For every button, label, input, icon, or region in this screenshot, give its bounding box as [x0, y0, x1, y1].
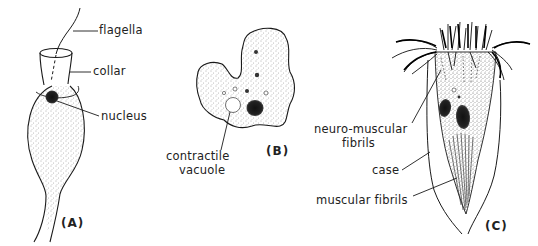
organism-c-ciliate: [392, 22, 530, 234]
label-neuro-muscular: neuro-muscular: [314, 123, 407, 136]
label-case: case: [372, 164, 399, 177]
contractile-vacuole-b: [226, 98, 241, 113]
label-collar: collar: [93, 65, 126, 78]
organism-b-amoeba: [197, 28, 295, 150]
panel-label-c: (C): [485, 219, 508, 233]
cell-body-b: [197, 28, 295, 127]
panel-label-b: (B): [266, 144, 289, 158]
nucleus-a: [46, 91, 59, 104]
label-contractile: contractile: [166, 150, 229, 163]
panel-label-a: (A): [61, 216, 84, 230]
label-muscular-fibrils: muscular fibrils: [316, 194, 408, 207]
label-fibrils: fibrils: [342, 137, 375, 150]
label-vacuole: vacuole: [179, 164, 225, 177]
organism-a-choanoflagellate: [28, 8, 99, 242]
figure: flagella collar nucleus (A) contractile …: [0, 0, 538, 246]
label-flagella: flagella: [99, 24, 143, 37]
diagram-canvas: [0, 0, 538, 246]
label-nucleus: nucleus: [101, 110, 147, 123]
nucleus-b: [247, 100, 264, 116]
